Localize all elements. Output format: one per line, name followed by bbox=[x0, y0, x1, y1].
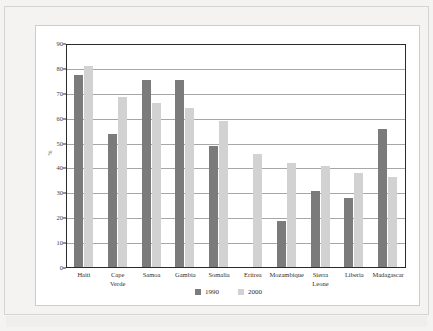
legend-label: 2000 bbox=[248, 288, 262, 296]
cropped-title-sliver bbox=[0, 0, 433, 5]
y-axis-tick-label: 20 bbox=[39, 215, 63, 222]
bar-group bbox=[168, 45, 202, 267]
bar-group bbox=[135, 45, 169, 267]
y-axis-tick-label: 70 bbox=[39, 91, 63, 98]
figure-panel: % 0102030405060708090 HaitiCape VerdeSam… bbox=[35, 25, 420, 306]
y-axis-tick-label: 80 bbox=[39, 66, 63, 73]
y-axis-tick-label: 40 bbox=[39, 165, 63, 172]
bar-2000 bbox=[118, 97, 127, 267]
bar-2000 bbox=[84, 66, 93, 267]
bar-2000 bbox=[253, 154, 262, 267]
y-axis-tick-label: 50 bbox=[39, 140, 63, 147]
x-axis-label: Madagascar bbox=[365, 271, 411, 280]
bar-1990 bbox=[277, 221, 286, 267]
legend-item: 2000 bbox=[238, 288, 262, 296]
bar-2000 bbox=[287, 163, 296, 267]
bar-1990 bbox=[142, 80, 151, 267]
y-axis-tick-label: 10 bbox=[39, 240, 63, 247]
y-axis-tick-label: 60 bbox=[39, 115, 63, 122]
bar-group bbox=[270, 45, 304, 267]
bar-1990 bbox=[74, 75, 83, 267]
bar-1990 bbox=[344, 198, 353, 267]
bar-2000 bbox=[321, 166, 330, 267]
legend-item: 1990 bbox=[195, 288, 219, 296]
scan-noise-band bbox=[6, 316, 427, 327]
y-axis-tick-column: 0102030405060708090 bbox=[36, 44, 63, 268]
page-frame: % 0102030405060708090 HaitiCape VerdeSam… bbox=[4, 6, 429, 315]
legend-swatch-icon bbox=[238, 289, 244, 295]
bar-2000 bbox=[152, 103, 161, 267]
y-axis-tick-label: 30 bbox=[39, 190, 63, 197]
bar-group bbox=[67, 45, 101, 267]
bar-1990 bbox=[108, 134, 117, 267]
page-root: % 0102030405060708090 HaitiCape VerdeSam… bbox=[0, 0, 433, 331]
bar-group bbox=[101, 45, 135, 267]
bar-2000 bbox=[354, 173, 363, 267]
bar-group bbox=[236, 45, 270, 267]
bar-1990 bbox=[311, 191, 320, 267]
bars-layer bbox=[67, 45, 405, 267]
bar-group bbox=[304, 45, 338, 267]
bar-group bbox=[202, 45, 236, 267]
bar-group bbox=[371, 45, 405, 267]
bar-group bbox=[337, 45, 371, 267]
y-axis-tick-label: 90 bbox=[39, 41, 63, 48]
bar-1990 bbox=[209, 146, 218, 267]
chart-legend: 19902000 bbox=[36, 288, 421, 296]
bar-2000 bbox=[388, 177, 397, 267]
legend-swatch-icon bbox=[195, 289, 201, 295]
bar-2000 bbox=[185, 108, 194, 267]
bar-1990 bbox=[378, 129, 387, 267]
bar-1990 bbox=[175, 80, 184, 267]
bar-2000 bbox=[219, 121, 228, 267]
y-axis-tick-label: 0 bbox=[39, 265, 63, 272]
bar-chart: % 0102030405060708090 HaitiCape VerdeSam… bbox=[36, 26, 421, 307]
legend-label: 1990 bbox=[205, 288, 219, 296]
